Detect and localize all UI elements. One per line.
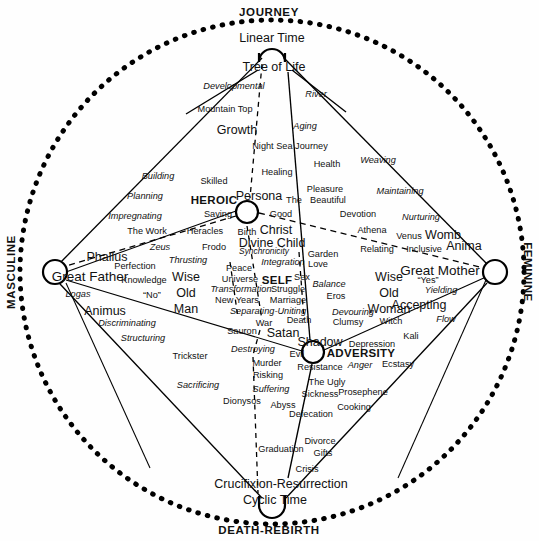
label-frodo: Frodo [202,243,226,252]
label-athena: Athena [357,226,386,235]
label-graduation: Graduation [258,445,303,454]
label-destroying: Destroying [231,345,275,354]
node-death-rebirth-cup [259,505,285,518]
label-new-years: New Years [215,296,259,305]
label-cooking: Cooking [337,403,371,412]
label-suffering: Suffering [253,385,290,394]
label-marriage: Marriage [270,296,306,305]
label-peace: Peace [226,264,252,273]
label-synchronicity: Synchronicity [239,247,289,255]
node-great-mother: Great Mother [400,264,480,278]
label-no: “No” [143,291,161,300]
label-developmental: Developmental [203,82,264,91]
label-gifts: Gifts [314,449,333,458]
label-devotion: Devotion [340,210,376,219]
label-knowledge: Knowledge [121,276,166,285]
label-the: The [286,196,302,205]
label-growth: Growth [217,124,257,137]
label-trickster: Trickster [173,352,208,361]
label-death: Death [287,316,312,325]
label-wise-old-man-3: Man [174,303,198,316]
pole-heroic: HEROIC [191,195,238,207]
label-devouring: Devouring [332,308,374,317]
label-wise-old-man-2: Old [176,287,195,300]
label-wise-old-man-1: Wise [172,271,200,284]
label-animus: Animus [84,305,126,318]
label-weaving: Weaving [360,156,396,165]
label-healing: Healing [261,168,292,177]
label-night-sea-journey: Night Sea Journey [252,142,328,151]
label-aging: Aging [293,122,317,131]
label-discriminating: Discriminating [98,319,156,328]
node-linear-time: Linear Time [239,32,304,45]
diagram-canvas: .solid{ fill:none; stroke:#000; stroke-w… [0,0,539,541]
label-resistance: Resistance [297,363,342,372]
label-mountain-top: Mountain Top [198,105,253,114]
label-maintaining: Maintaining [377,187,424,196]
label-the-ugly: The Ugly [309,378,346,387]
label-sauron: Sauron [227,327,257,336]
node-heroic-circle [236,201,258,223]
axis-label-masculine: MASCULINE [6,235,18,309]
label-integration: Integration [261,258,304,267]
label-zeus: Zeus [150,243,170,252]
label-inclusive: Inclusive [406,245,442,254]
label-clumsy: Clumsy [333,318,364,327]
label-river: River [305,90,326,99]
label-heracles: Heracles [187,227,223,236]
label-crisis: Crisis [296,465,319,474]
axis-label-feminine: FEMININE [521,242,533,302]
label-relating: Relating [360,245,394,254]
label-building: Building [142,172,175,181]
label-divorce: Divorce [304,437,335,446]
label-murder: Murder [252,359,281,368]
axis-label-death-rebirth: DEATH-REBIRTH [218,525,320,537]
label-sex: Sex [294,273,310,282]
label-eros: Eros [327,292,346,301]
label-satan: Satan [267,327,300,340]
label-love: Love [308,260,328,269]
label-dionysos: Dionysos [223,397,261,406]
label-balance: Balance [312,280,345,289]
label-venus: Venus [396,232,422,241]
label-prosephene: Prosephene [338,388,388,397]
label-good: Good [270,210,292,219]
label-risking: Risking [253,371,283,380]
label-thrusting: Thrusting [169,256,207,265]
label-planning: Planning [127,192,163,201]
label-yielding: Yielding [425,286,458,295]
node-feminine-circle [483,260,507,284]
node-cyclic-time: Cyclic Time [243,494,307,507]
node-persona: Persona [236,190,283,203]
label-transformation: Transformation [210,285,271,294]
label-garden: Garden [308,250,339,259]
label-logas: Logas [65,290,90,299]
label-defecation: Defecation [289,410,333,419]
label-wise-old-woman-1: Wise [375,271,403,284]
axis-label-journey: JOURNEY [239,7,299,19]
label-sickness: Sickness [302,390,339,399]
label-skilled: Skilled [200,177,227,186]
label-pleasure: Pleasure [307,185,343,194]
label-yes: “Yes” [417,276,438,285]
label-accepting: Accepting [392,299,447,312]
label-christ: Christ [260,224,293,237]
label-sacrificing: Sacrificing [177,381,219,390]
label-flow: Flow [436,315,455,324]
label-evil: Evil [290,350,305,359]
label-nurturing: Nurturing [402,213,440,222]
label-saving: Saving [204,210,232,219]
node-crucifixion-resurrection: Crucifixion-Resurrection [214,478,347,491]
label-beautiful: Beautiful [310,196,346,205]
node-tree-of-life: Tree of Life [243,61,306,74]
label-kali: Kali [403,332,418,341]
pole-adversity: ADVERSITY [327,348,396,360]
label-witch: Witch [380,317,403,326]
label-struggle: Struggle [271,285,305,294]
label-the-work: The Work [127,227,167,236]
label-universe: Universe [222,275,258,284]
label-anima: Anima [446,240,481,253]
label-impregnating: Impregnating [108,212,162,221]
label-ecstasy: Ecstasy [382,360,414,369]
node-great-father: Great Father [52,270,129,284]
